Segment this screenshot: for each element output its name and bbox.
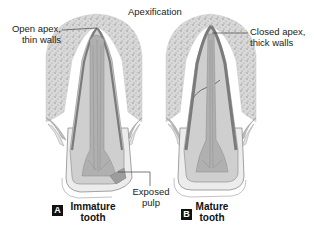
tooth-a-gingiva-left xyxy=(46,118,66,140)
exposed-pulp-line2: pulp xyxy=(132,197,170,208)
closed-apex-callout: Closed apex, thick walls xyxy=(250,26,305,48)
tooth-a-caption-line2: tooth xyxy=(68,212,118,223)
tooth-a-caption-line1: Immature xyxy=(68,201,118,212)
tooth-a-badge: A xyxy=(52,205,63,216)
exposed-pulp-label: Exposed pulp xyxy=(132,186,170,208)
tooth-b-caption-line1: Mature xyxy=(192,201,232,212)
closed-apex-callout-line1: Closed apex, xyxy=(250,26,305,37)
diagram-title: Apexification xyxy=(128,6,182,17)
tooth-b-caption: Mature tooth xyxy=(192,201,232,223)
open-apex-callout: Open apex, thin walls xyxy=(6,23,61,45)
tooth-b-mature xyxy=(166,14,256,197)
tooth-a-caption: Immature tooth xyxy=(68,201,118,223)
open-apex-callout-line1: Open apex, xyxy=(6,23,61,34)
closed-apex-callout-line2: thick walls xyxy=(250,37,305,48)
open-apex-callout-line2: thin walls xyxy=(6,34,61,45)
exposed-pulp-line1: Exposed xyxy=(132,186,170,197)
tooth-b-caption-line2: tooth xyxy=(192,212,232,223)
tooth-b-badge: B xyxy=(181,209,192,220)
